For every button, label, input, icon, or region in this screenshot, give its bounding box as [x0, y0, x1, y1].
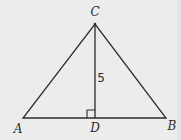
altitude-length-label: 5	[97, 72, 105, 84]
right-angle-marker	[87, 110, 95, 118]
vertex-label-d: D	[90, 122, 100, 134]
triangle-figure	[0, 0, 181, 140]
vertex-label-b: B	[168, 120, 177, 132]
vertex-label-a: A	[14, 123, 23, 135]
diagram-canvas: C A D B 5	[0, 0, 181, 140]
vertex-label-c: C	[90, 6, 99, 18]
vertex-dot-c	[94, 23, 97, 26]
